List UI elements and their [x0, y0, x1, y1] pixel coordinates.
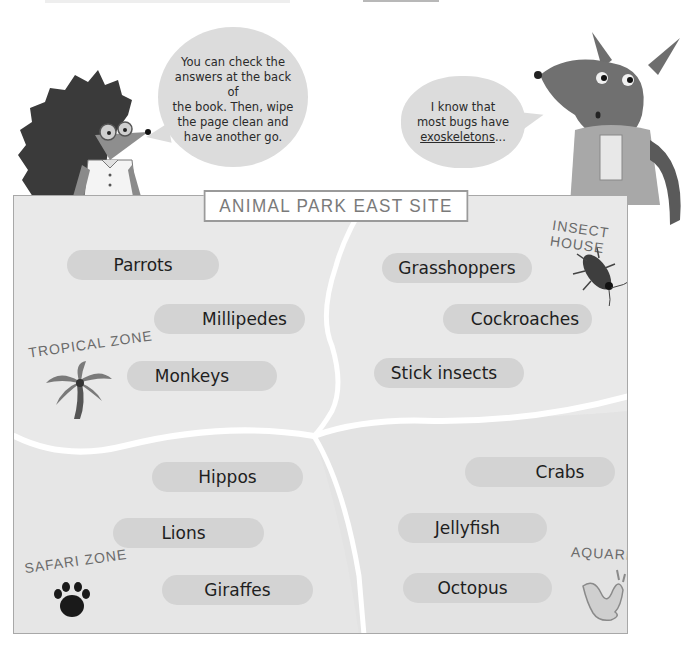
animal-label-crabs[interactable]: Crabs: [465, 457, 615, 487]
ellipsis: ...: [495, 130, 506, 144]
animal-label-grasshoppers[interactable]: Grasshoppers: [382, 253, 532, 283]
cockroach-icon: [569, 246, 628, 306]
water-splash-icon: [579, 568, 628, 623]
speech-line: have another go.: [168, 130, 298, 145]
cut-off-text-line: [45, 0, 290, 3]
animal-label-jellyfish[interactable]: Jellyfish: [398, 513, 547, 543]
animal-label-hippos[interactable]: Hippos: [152, 462, 303, 492]
animal-label-monkeys[interactable]: Monkeys: [127, 361, 277, 391]
hedgehog-icon: [10, 60, 160, 205]
animal-label-stick-insects[interactable]: Stick insects: [374, 358, 524, 388]
speech-line: the book. Then, wipe: [168, 100, 298, 115]
speech-line: most bugs have: [407, 115, 519, 130]
speech-line: You can check the: [168, 55, 298, 70]
speech-bubble-text: You can check the answers at the back of…: [168, 55, 298, 145]
animal-label-cockroaches[interactable]: Cockroaches: [443, 304, 592, 334]
speech-line: I know that: [407, 100, 519, 115]
animal-label-giraffes[interactable]: Giraffes: [162, 575, 313, 605]
speech-line: the page clean and: [168, 115, 298, 130]
animal-label-lions[interactable]: Lions: [113, 518, 264, 548]
speech-bubble-hedgehog: You can check the answers at the back of…: [158, 27, 308, 167]
cut-off-answer-line: [363, 0, 439, 2]
speech-line: exoskeletons...: [407, 130, 519, 145]
palm-tree-icon: [44, 361, 114, 421]
speech-bubble-text: I know that most bugs have exoskeletons.…: [407, 100, 519, 145]
animal-label-parrots[interactable]: Parrots: [67, 250, 219, 280]
hedgehog-character: [10, 60, 160, 205]
paw-print-icon: [52, 576, 92, 621]
animal-label-millipedes[interactable]: Millipedes: [154, 304, 305, 334]
map-title: ANIMAL PARK EAST SITE: [204, 190, 469, 222]
speech-line: answers at the back of: [168, 70, 298, 100]
animal-label-octopus[interactable]: Octopus: [403, 573, 552, 603]
speech-bubble-kangaroo: I know that most bugs have exoskeletons.…: [401, 76, 525, 168]
keyword-exoskeletons: exoskeletons: [420, 130, 495, 144]
